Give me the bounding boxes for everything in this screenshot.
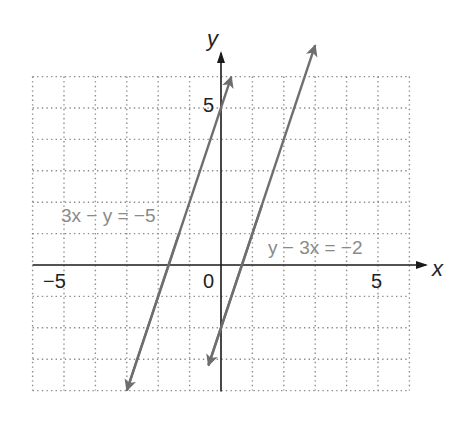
x-tick-neg5: −5 <box>43 271 66 291</box>
origin-label: 0 <box>203 271 214 291</box>
y-tick-5: 5 <box>203 95 214 115</box>
x-tick-5: 5 <box>371 271 382 291</box>
graph-line-arrow-segment <box>127 234 179 391</box>
equation-label-line1: 3x − y = −5 <box>61 206 156 225</box>
y-axis-label: y <box>207 28 218 50</box>
equation-label-line2: y − 3x = −2 <box>268 238 363 257</box>
x-axis-label: x <box>432 258 443 280</box>
graph-line-arrow-segment <box>208 205 261 365</box>
